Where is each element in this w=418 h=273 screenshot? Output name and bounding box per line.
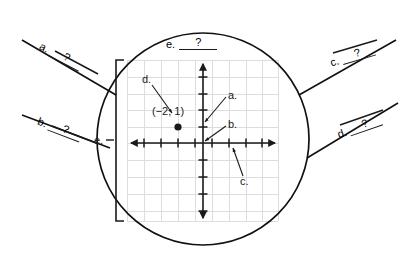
callout-e-top[interactable]: e. ? (166, 36, 217, 50)
label-b: b. (228, 119, 237, 130)
label-d: d. (142, 74, 151, 85)
point-coordinate-label: (−2, 1) (152, 106, 184, 117)
callout-e-top-blank[interactable]: ? (179, 36, 217, 50)
grid-extent-bracket (116, 60, 124, 221)
figure-canvas: d. a. b. c. (−2, 1) e. ? e. a. ? b. ? c.… (0, 0, 418, 273)
plotted-point (174, 123, 181, 130)
label-c: c. (240, 176, 249, 187)
outer-leader-a (22, 40, 116, 95)
callout-e-left-letter: e. (94, 135, 103, 146)
label-a: a. (228, 90, 237, 101)
callout-e-top-letter: e. (166, 38, 175, 50)
